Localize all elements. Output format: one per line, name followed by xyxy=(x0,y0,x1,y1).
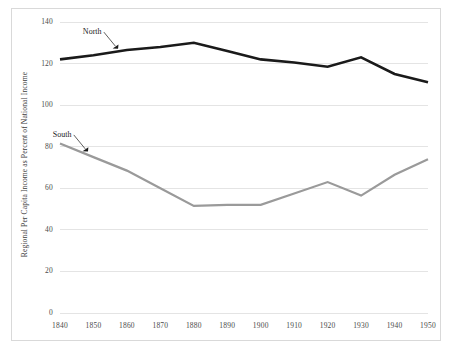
x-tick-label-1880: 1880 xyxy=(177,321,211,330)
annotation-arrowhead-north xyxy=(113,45,119,49)
chart-container: 020406080100120140 184018501860187018801… xyxy=(0,0,452,351)
series-label-south: South xyxy=(53,130,72,139)
x-tick-label-1840: 1840 xyxy=(43,321,77,330)
x-tick-label-1940: 1940 xyxy=(378,321,412,330)
annotation-arrows-group xyxy=(74,32,119,151)
x-tick-label-1850: 1850 xyxy=(76,321,110,330)
y-tick-label-100: 100 xyxy=(27,100,53,109)
y-tick-label-60: 60 xyxy=(27,183,53,192)
chart-plot-area xyxy=(0,0,452,351)
annotation-arrowhead-south xyxy=(83,147,89,151)
annotation-leader-north xyxy=(104,32,116,46)
series-line-south xyxy=(60,144,428,206)
y-tick-label-0: 0 xyxy=(27,308,53,317)
y-tick-label-120: 120 xyxy=(27,59,53,68)
x-tick-label-1870: 1870 xyxy=(143,321,177,330)
series-group xyxy=(60,43,428,206)
x-tick-label-1950: 1950 xyxy=(411,321,445,330)
series-line-north xyxy=(60,43,428,82)
y-tick-label-80: 80 xyxy=(27,142,53,151)
y-tick-label-40: 40 xyxy=(27,225,53,234)
x-tick-label-1910: 1910 xyxy=(277,321,311,330)
x-tick-label-1890: 1890 xyxy=(210,321,244,330)
y-axis-title: Regional Per Capita Income as Percent of… xyxy=(20,65,29,265)
series-label-north: North xyxy=(83,27,102,36)
x-tick-label-1920: 1920 xyxy=(311,321,345,330)
y-tick-label-20: 20 xyxy=(27,266,53,275)
gridlines-group xyxy=(60,22,428,313)
x-tick-label-1860: 1860 xyxy=(110,321,144,330)
x-tick-label-1900: 1900 xyxy=(244,321,278,330)
x-tick-label-1930: 1930 xyxy=(344,321,378,330)
y-tick-label-140: 140 xyxy=(27,17,53,26)
